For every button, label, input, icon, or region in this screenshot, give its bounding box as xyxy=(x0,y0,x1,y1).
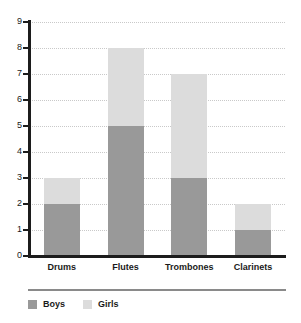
plot-area xyxy=(30,22,285,256)
category-label: Flutes xyxy=(94,262,158,273)
stacked-bar-chart: 0123456789 DrumsFlutesTrombonesClarinets… xyxy=(0,0,301,323)
bar-segment[interactable] xyxy=(44,204,80,256)
legend-item[interactable]: Boys xyxy=(28,300,65,309)
x-axis-line xyxy=(28,255,286,258)
legend-label: Girls xyxy=(98,300,119,309)
bar-segment[interactable] xyxy=(235,230,271,256)
legend-swatch-icon xyxy=(28,300,37,309)
y-tick-label: 4 xyxy=(2,147,22,156)
y-tick-label: 7 xyxy=(2,69,22,78)
bar-group[interactable] xyxy=(44,178,80,256)
bar-group[interactable] xyxy=(235,204,271,256)
y-tick-mark xyxy=(23,73,29,75)
category-label: Clarinets xyxy=(221,262,285,273)
y-tick-mark xyxy=(23,99,29,101)
gridline xyxy=(30,48,285,49)
bar-segment[interactable] xyxy=(235,204,271,230)
bar-segment[interactable] xyxy=(108,126,144,256)
y-tick-label: 0 xyxy=(2,251,22,260)
y-tick-mark xyxy=(23,255,29,257)
y-tick-label: 8 xyxy=(2,43,22,52)
legend-divider xyxy=(28,289,286,291)
legend-item[interactable]: Girls xyxy=(83,300,119,309)
y-tick-mark xyxy=(23,151,29,153)
bar-group[interactable] xyxy=(108,48,144,256)
y-tick-mark xyxy=(23,125,29,127)
y-tick-mark xyxy=(23,229,29,231)
gridline xyxy=(30,126,285,127)
y-tick-label: 1 xyxy=(2,225,22,234)
y-tick-mark xyxy=(23,203,29,205)
category-label: Drums xyxy=(30,262,94,273)
bar-segment[interactable] xyxy=(44,178,80,204)
gridline xyxy=(30,152,285,153)
y-tick-mark xyxy=(23,21,29,23)
y-axis-line xyxy=(28,20,31,258)
y-tick-mark xyxy=(23,47,29,49)
bar-segment[interactable] xyxy=(108,48,144,126)
gridline xyxy=(30,22,285,23)
chart-legend: BoysGirls xyxy=(28,300,119,309)
gridline xyxy=(30,74,285,75)
bar-segment[interactable] xyxy=(171,74,207,178)
legend-label: Boys xyxy=(43,300,65,309)
bar-group[interactable] xyxy=(171,74,207,256)
legend-swatch-icon xyxy=(83,300,92,309)
y-tick-mark xyxy=(23,177,29,179)
bar-segment[interactable] xyxy=(171,178,207,256)
y-tick-label: 3 xyxy=(2,173,22,182)
y-tick-label: 6 xyxy=(2,95,22,104)
y-tick-label: 9 xyxy=(2,17,22,26)
y-tick-label: 2 xyxy=(2,199,22,208)
category-label: Trombones xyxy=(158,262,222,273)
y-tick-label: 5 xyxy=(2,121,22,130)
gridline xyxy=(30,100,285,101)
